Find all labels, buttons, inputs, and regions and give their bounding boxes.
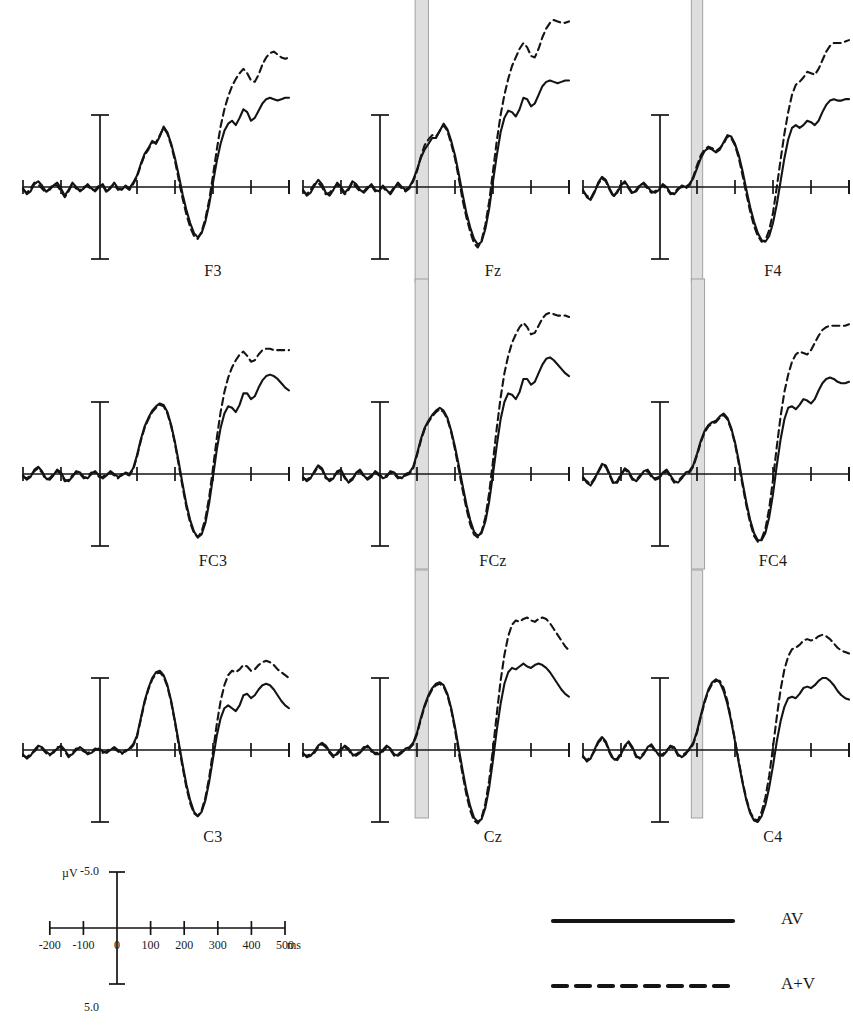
panel-label-f3: F3 xyxy=(173,262,253,280)
erp-panel-c3 xyxy=(0,0,853,1029)
panel-label-cz: Cz xyxy=(453,828,533,846)
amplitude-top-label: -5.0 xyxy=(80,864,99,879)
trace-av xyxy=(583,99,849,242)
trace-av xyxy=(23,671,289,816)
trace-av xyxy=(303,357,569,536)
trace-aplusv xyxy=(23,661,289,817)
microvolt-unit-label: µV xyxy=(62,866,78,881)
trace-aplusv xyxy=(23,349,289,538)
trace-aplusv xyxy=(583,635,849,821)
amplitude-bottom-label: 5.0 xyxy=(84,1000,99,1015)
erp-panel-c4 xyxy=(0,0,853,1029)
calibration-key xyxy=(0,0,853,1029)
trace-av xyxy=(303,80,569,244)
erp-panel-f3 xyxy=(0,0,853,1029)
trace-aplusv xyxy=(303,313,569,538)
time-unit-label: ms xyxy=(287,938,301,953)
trace-av xyxy=(23,375,289,538)
trace-av xyxy=(303,664,569,822)
highlight-band xyxy=(691,279,704,569)
trace-aplusv xyxy=(23,52,289,239)
trace-aplusv xyxy=(303,618,569,824)
trace-aplusv xyxy=(583,40,849,242)
erp-panel-cz xyxy=(0,0,853,1029)
erp-figure: F3FzF4FC3FCzFC4C3CzC4µV-5.05.0-200-10001… xyxy=(0,0,853,1029)
highlight-band xyxy=(415,570,428,818)
panel-label-c3: C3 xyxy=(173,828,253,846)
trace-av xyxy=(583,378,849,541)
panel-label-fz: Fz xyxy=(453,262,533,280)
erp-panel-fc4 xyxy=(0,0,853,1029)
trace-aplusv xyxy=(583,324,849,541)
panel-label-fcz: FCz xyxy=(453,552,533,570)
legend-swatches xyxy=(0,0,853,1029)
erp-panel-fc3 xyxy=(0,0,853,1029)
panel-label-c4: C4 xyxy=(733,828,813,846)
trace-av xyxy=(23,98,289,238)
trace-av xyxy=(583,678,849,822)
highlight-band xyxy=(415,0,428,282)
legend-label-av: AV xyxy=(781,909,803,929)
erp-panel-f4 xyxy=(0,0,853,1029)
highlight-band xyxy=(691,0,702,282)
panel-label-fc3: FC3 xyxy=(173,552,253,570)
erp-panel-fz xyxy=(0,0,853,1029)
erp-panel-fcz xyxy=(0,0,853,1029)
highlight-band xyxy=(415,279,428,569)
panel-label-fc4: FC4 xyxy=(733,552,813,570)
highlight-band xyxy=(691,570,702,818)
panel-label-f4: F4 xyxy=(733,262,813,280)
legend-label-aplusv: A+V xyxy=(781,974,815,994)
trace-aplusv xyxy=(303,20,569,248)
